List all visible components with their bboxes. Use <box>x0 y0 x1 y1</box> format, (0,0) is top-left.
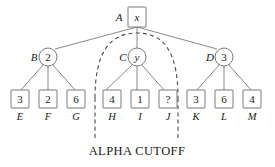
leaf-node-k[interactable]: 3 K <box>187 90 205 122</box>
node-d-value: 3 <box>221 51 227 63</box>
node-c[interactable]: y C <box>119 48 146 66</box>
node-a-label: A <box>115 11 123 23</box>
node-b-value: 2 <box>45 51 51 63</box>
leaf-k-value: 3 <box>193 93 199 105</box>
figure-caption: ALPHA CUTOFF <box>89 144 186 158</box>
edge-c-to-h <box>106 65 132 90</box>
edge-d-to-m <box>229 65 251 90</box>
leaf-f-value: 2 <box>45 93 51 105</box>
leaf-node-l[interactable]: 6 L <box>215 90 233 122</box>
leaf-m-value: 4 <box>249 93 255 105</box>
leaf-g-value: 6 <box>73 93 79 105</box>
edges-node-c <box>106 65 164 90</box>
leaf-m-label: M <box>247 111 258 122</box>
edge-b-to-e <box>21 65 43 90</box>
leaf-i-label: I <box>137 111 142 122</box>
leaf-i-value: 1 <box>137 93 143 105</box>
node-b[interactable]: 2 B <box>31 48 57 66</box>
leaf-node-f[interactable]: 2 F <box>39 90 57 122</box>
edge-b-to-g <box>53 65 75 90</box>
node-d-label: D <box>205 51 214 63</box>
node-c-label: C <box>119 51 127 63</box>
node-a-value: x <box>134 11 140 23</box>
edges-node-b <box>21 65 75 90</box>
leaf-k-label: K <box>191 111 200 122</box>
leaf-f-label: F <box>44 111 52 122</box>
edge-a-to-b <box>55 27 137 49</box>
alpha-beta-pruning-figure: x A 2 B y C 3 D 3 E 2 <box>0 0 275 167</box>
leaf-l-value: 6 <box>221 93 227 105</box>
leaf-j-label: J <box>166 111 172 122</box>
leaf-l-label: L <box>220 111 227 122</box>
leaf-node-e[interactable]: 3 E <box>11 90 29 122</box>
leaf-g-label: G <box>72 111 80 122</box>
game-tree-diagram: x A 2 B y C 3 D 3 E 2 <box>0 0 275 167</box>
node-c-value: y <box>134 51 140 63</box>
leaf-node-i[interactable]: 1 I <box>131 90 149 122</box>
edge-d-to-k <box>197 65 219 90</box>
leaf-node-m[interactable]: 4 M <box>243 90 261 122</box>
leaf-h-value: 4 <box>109 93 115 105</box>
edge-c-to-j <box>142 65 164 90</box>
edge-a-to-d <box>137 27 217 49</box>
leaf-j-value: ? <box>166 93 171 105</box>
edges-root-level <box>55 27 217 49</box>
leaf-h-label: H <box>107 111 117 122</box>
edges-node-d <box>197 65 251 90</box>
node-b-label: B <box>31 51 38 63</box>
leaf-e-label: E <box>16 111 24 122</box>
leaf-e-value: 3 <box>17 93 23 105</box>
node-a[interactable]: x A <box>115 7 146 27</box>
leaf-node-j[interactable]: ? J <box>159 90 177 122</box>
leaf-node-h[interactable]: 4 H <box>103 90 121 122</box>
leaf-node-g[interactable]: 6 G <box>67 90 85 122</box>
node-d[interactable]: 3 D <box>205 48 233 66</box>
